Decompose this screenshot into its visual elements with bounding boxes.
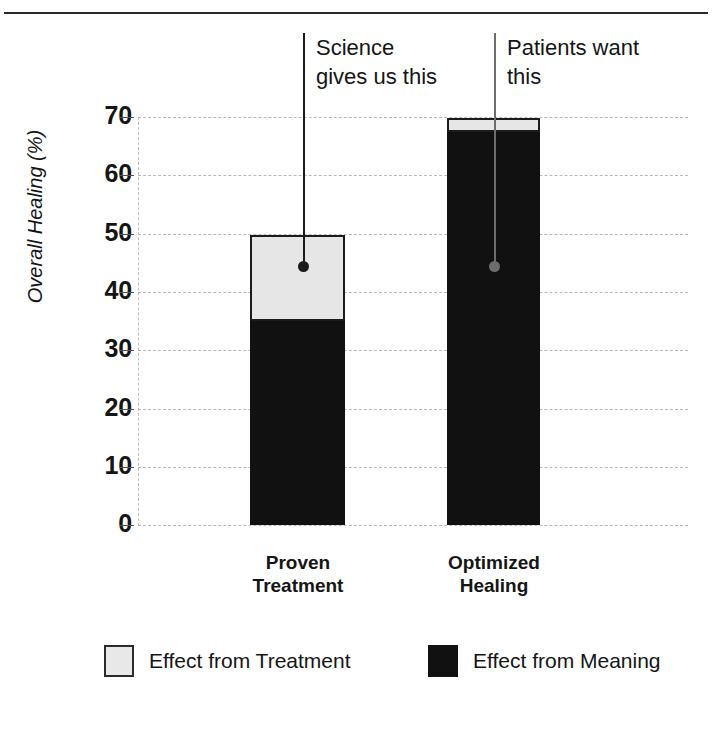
annotation-patients-line1: Patients want: [507, 35, 639, 60]
y-axis-ticks: 70 60 50 40 30 20 10 0: [0, 117, 132, 525]
y-tick-mark-70: [120, 117, 134, 118]
gridline-70: [138, 117, 688, 119]
x-category-label-proven-treatment: Proven Treatment: [198, 551, 398, 597]
y-axis-line: [138, 117, 140, 526]
y-tick-mark-30: [120, 350, 134, 351]
y-axis-label: Overall Healing (%): [24, 87, 47, 347]
legend-swatch-treatment-icon: [104, 645, 134, 677]
annotation-leader-line-science: [303, 33, 305, 266]
gridline-40: [138, 292, 688, 294]
legend-item-effect-from-treatment: Effect from Treatment: [104, 645, 351, 677]
top-divider-rule: [4, 12, 708, 14]
y-tick-mark-0: [120, 525, 134, 526]
y-tick-mark-60: [120, 175, 134, 176]
gridline-20: [138, 409, 688, 411]
legend-label-effect-from-meaning: Effect from Meaning: [473, 649, 661, 673]
gridline-50: [138, 234, 688, 236]
x-cat-optimized-line2: Healing: [460, 575, 529, 596]
annotation-text-science: Science gives us this: [316, 33, 437, 91]
y-tick-mark-10: [120, 467, 134, 468]
y-tick-label-20: 20: [14, 393, 132, 422]
gridline-60: [138, 175, 688, 177]
annotation-science-line2: gives us this: [316, 64, 437, 89]
y-tick-label-10: 10: [14, 451, 132, 480]
legend-item-effect-from-meaning: Effect from Meaning: [428, 645, 661, 677]
annotation-endpoint-dot-science: [298, 261, 309, 272]
bar-proven-treatment: [250, 235, 345, 525]
gridline-10: [138, 467, 688, 469]
y-tick-label-0: 0: [14, 509, 132, 538]
gridline-30: [138, 350, 688, 352]
legend-label-effect-from-treatment: Effect from Treatment: [149, 649, 351, 673]
x-cat-proven-line1: Proven: [266, 552, 330, 573]
bar-segment-meaning-proven: [250, 321, 345, 525]
y-tick-mark-50: [120, 234, 134, 235]
x-category-label-optimized-healing: Optimized Healing: [394, 551, 594, 597]
bar-segment-treatment-proven: [250, 235, 345, 321]
y-tick-mark-20: [120, 409, 134, 410]
plot-area: [138, 117, 688, 525]
annotation-leader-line-patients: [494, 33, 496, 266]
x-cat-proven-line2: Treatment: [253, 575, 344, 596]
legend-swatch-meaning-icon: [428, 645, 458, 677]
y-tick-mark-40: [120, 292, 134, 293]
annotation-text-patients: Patients want this: [507, 33, 639, 91]
annotation-endpoint-dot-patients: [489, 261, 500, 272]
chart-legend: Effect from Treatment Effect from Meanin…: [0, 645, 712, 685]
chart-figure: 70 60 50 40 30 20 10 0 Overall Healing (…: [0, 0, 712, 737]
x-cat-optimized-line1: Optimized: [448, 552, 540, 573]
annotation-science-line1: Science: [316, 35, 394, 60]
gridline-0: [138, 525, 688, 527]
annotation-patients-line2: this: [507, 64, 541, 89]
